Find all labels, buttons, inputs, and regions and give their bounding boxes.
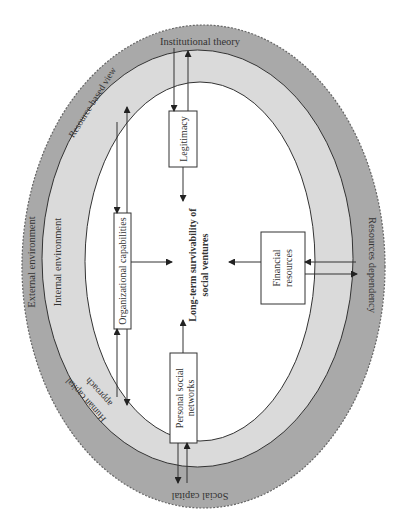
svg-text:Organizational capabilities: Organizational capabilities (117, 217, 128, 324)
legitimacy-box: Legitimacy (169, 111, 197, 167)
organizational-capabilities-box: Organizational capabilities (114, 213, 131, 329)
external-environment-label: External environment (26, 216, 37, 307)
financial-resources-box: Financial resources (261, 232, 305, 304)
social-capital-label: Social capital (171, 491, 228, 502)
svg-text:social ventures: social ventures (199, 233, 210, 296)
framework-diagram: External environment Internal environmen… (0, 0, 401, 530)
svg-text:Legitimacy: Legitimacy (178, 116, 189, 162)
svg-text:networks: networks (185, 380, 196, 417)
svg-text:resources: resources (283, 249, 294, 287)
svg-text:Long-term survivability of: Long-term survivability of (187, 208, 198, 322)
internal-environment-label: Internal environment (52, 218, 63, 306)
personal-social-networks-box: Personal social networks (170, 353, 197, 443)
resources-dependency-label: Resources dependency (367, 217, 378, 314)
svg-text:Financial: Financial (271, 249, 282, 286)
institutional-theory-label: Institutional theory (160, 36, 241, 47)
svg-text:Personal social: Personal social (174, 368, 185, 428)
